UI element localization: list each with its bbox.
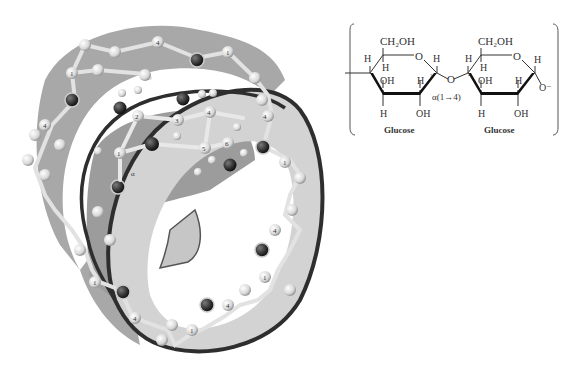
svg-text:4: 4 (156, 39, 160, 47)
right-ring-o: O (513, 50, 521, 62)
svg-text:O⁻: O⁻ (539, 82, 552, 93)
c2-label: 2 (135, 113, 139, 121)
left-ring-o: O (415, 50, 423, 62)
svg-text:1: 1 (283, 159, 287, 167)
svg-text:H: H (417, 75, 424, 86)
svg-text:OH: OH (514, 108, 528, 119)
svg-text:OH: OH (478, 75, 492, 86)
glycosidic-oxygen: O (447, 73, 455, 85)
svg-text:OH: OH (380, 75, 394, 86)
c6-label: 6 (225, 140, 229, 148)
right-ch2oh: CH₂OH (478, 35, 513, 47)
left-glucose-label: Glucose (384, 125, 415, 135)
right-glucose-label: Glucose (484, 125, 515, 135)
svg-text:H: H (515, 75, 522, 86)
svg-text:1: 1 (263, 274, 267, 282)
c4-label: 4 (207, 109, 211, 117)
c1-label: 1 (117, 150, 121, 158)
alpha-label: α (131, 170, 135, 178)
amylose-figure: 1 2 3 4 5 6 α 4 1 1 4 4 1 4 1 4 1 4 1 (0, 0, 569, 376)
svg-text:H: H (382, 62, 389, 73)
svg-text:4: 4 (263, 113, 267, 121)
svg-text:H: H (534, 54, 541, 65)
svg-text:1: 1 (190, 327, 194, 335)
svg-text:1: 1 (70, 70, 74, 78)
svg-text:4: 4 (273, 227, 277, 235)
svg-text:4: 4 (226, 302, 230, 310)
linkage-label: α(1→4) (432, 92, 461, 102)
svg-text:H: H (433, 53, 440, 64)
left-ch2oh: CH₂OH (380, 35, 415, 47)
svg-text:4: 4 (43, 122, 47, 130)
c3-label: 3 (175, 117, 179, 125)
svg-text:H: H (478, 108, 485, 119)
svg-text:H: H (380, 108, 387, 119)
c5-label: 5 (202, 145, 206, 153)
svg-text:H: H (465, 53, 472, 64)
svg-text:1: 1 (93, 279, 97, 287)
svg-text:OH: OH (416, 108, 430, 119)
glucose-disaccharide-structure: CH₂OH O H H H OH H H OH 1 Glucose O α(1→… (345, 24, 558, 135)
svg-text:4: 4 (133, 315, 137, 323)
svg-text:H: H (480, 62, 487, 73)
svg-text:1: 1 (226, 49, 230, 57)
svg-text:H: H (364, 53, 371, 64)
